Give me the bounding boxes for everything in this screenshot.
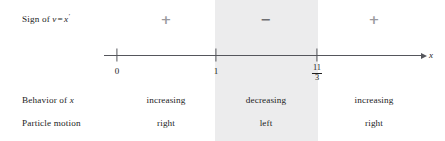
number-line-axis [104,55,422,56]
row-label-behavior-of-x: Behavior of x [22,94,74,106]
motion-value-interval-1: right [157,118,175,128]
row-label-particle-motion: Particle motion [22,117,81,129]
axis-tick-label-eleven-thirds: 11 3 [312,64,322,83]
fraction-denominator: 3 [312,74,322,83]
axis-tick-1 [215,49,216,62]
sign-value-interval-1: + [161,12,172,27]
fraction-numerator: 11 [312,64,322,73]
axis-variable-label: x [429,50,433,60]
motion-value-interval-3: right [365,118,383,128]
sign-row-label-prefix: Sign of [22,14,50,24]
axis-tick-label-1: 1 [214,66,219,76]
sign-row-label-equals: = [57,14,64,24]
behavior-value-interval-2: decreasing [246,95,286,105]
sign-chart-figure: Sign of v=x′ + − + x 0 1 11 3 Behavior o… [0,0,445,141]
behavior-value-interval-1: increasing [147,95,186,105]
sign-row-label-prime: ′ [68,12,70,20]
row-label-sign-of-v: Sign of v=x′ [22,13,70,25]
fraction-eleven-thirds: 11 3 [312,64,322,83]
behavior-row-label-x: x [70,95,74,105]
sign-value-interval-2: − [261,12,272,27]
axis-tick-eleven-thirds [316,49,317,62]
number-line-arrow-head [421,53,427,59]
sign-value-interval-3: + [369,12,380,27]
behavior-value-interval-3: increasing [355,95,394,105]
behavior-row-label-prefix: Behavior of [22,95,67,105]
motion-value-interval-2: left [260,118,273,128]
axis-tick-0 [116,49,117,62]
sign-row-label-v: v [52,14,56,24]
axis-tick-label-0: 0 [115,66,120,76]
